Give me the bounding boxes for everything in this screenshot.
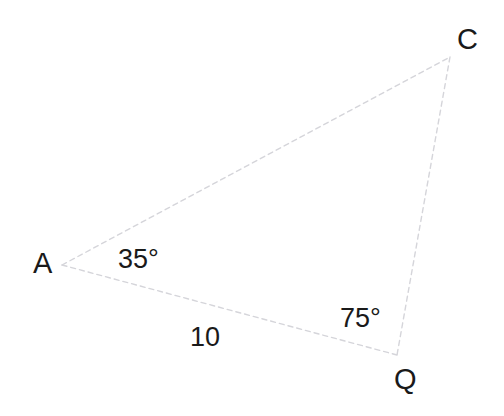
triangle-drawing	[0, 0, 504, 416]
angle-label-at-a: 35°	[118, 246, 159, 273]
triangle-side-cq	[397, 57, 450, 355]
vertex-label-a: A	[33, 249, 52, 278]
angle-label-at-q: 75°	[340, 305, 381, 332]
triangle-side-ac	[62, 57, 450, 265]
vertex-label-c: C	[457, 25, 478, 54]
triangle-figure: A C Q 35° 75° 10	[0, 0, 504, 416]
vertex-label-q: Q	[394, 365, 417, 394]
side-length-label-aq: 10	[190, 324, 220, 351]
